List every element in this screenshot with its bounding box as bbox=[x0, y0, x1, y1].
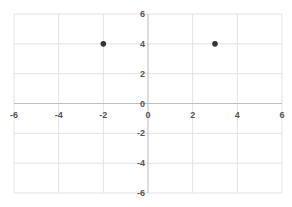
y-tick-label: -6 bbox=[137, 188, 145, 198]
y-tick-label: 6 bbox=[140, 9, 145, 19]
axes bbox=[14, 14, 282, 193]
x-tick-label: -4 bbox=[55, 110, 63, 120]
y-tick-label: -2 bbox=[137, 128, 145, 138]
y-tick-label: -4 bbox=[137, 158, 145, 168]
x-tick-label: -6 bbox=[10, 110, 18, 120]
data-point bbox=[101, 41, 107, 47]
x-tick-label: 2 bbox=[190, 110, 195, 120]
y-tick-label: 4 bbox=[140, 39, 145, 49]
scatter-chart: -6-4-20246 6420-2-4-6 bbox=[0, 0, 292, 207]
x-tick-label: 0 bbox=[145, 110, 150, 120]
x-tick-label: 4 bbox=[235, 110, 240, 120]
x-tick-label: -2 bbox=[99, 110, 107, 120]
y-tick-label: 2 bbox=[140, 69, 145, 79]
data-point bbox=[212, 41, 218, 47]
x-tick-labels: -6-4-20246 bbox=[10, 110, 285, 120]
x-tick-label: 6 bbox=[279, 110, 284, 120]
y-tick-label: 0 bbox=[140, 99, 145, 109]
